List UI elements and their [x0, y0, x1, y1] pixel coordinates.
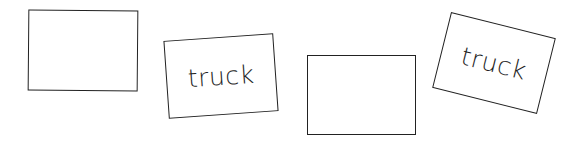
word-card-truck-1: truck: [163, 33, 278, 118]
blank-card-1: [28, 10, 139, 92]
card-label: truck: [458, 41, 530, 85]
blank-card-2: [307, 55, 416, 135]
word-card-truck-2: truck: [432, 12, 556, 114]
card-label: truck: [187, 59, 256, 93]
